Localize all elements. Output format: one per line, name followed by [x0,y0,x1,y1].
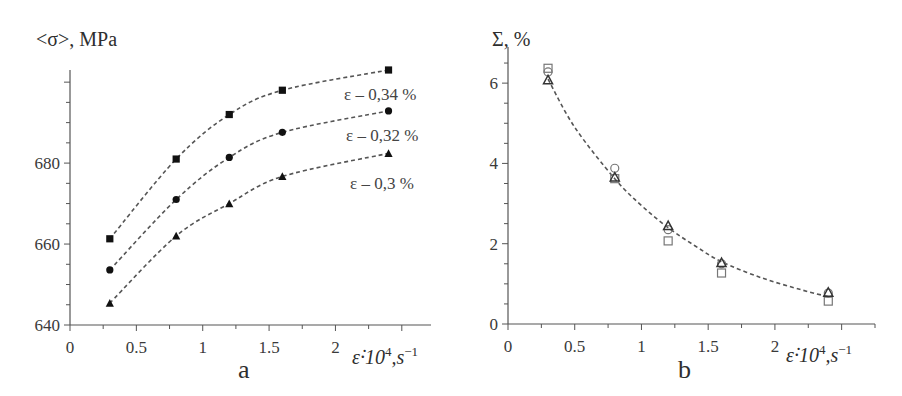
circle-marker [226,154,233,161]
curve-label-034: ε – 0,34 % [344,85,416,104]
triangle-marker [106,299,114,307]
panel-label-b: b [678,355,691,384]
fit-curve [548,79,828,297]
data-markers-b [543,64,832,305]
x-tick-label: 0 [66,338,75,357]
y-tick-label: 2 [490,235,499,254]
circle-marker [106,266,113,273]
y-axis-label-b: Σ, % [492,28,530,50]
y-tick-label: 640 [35,316,61,335]
x-axis-label-b: ε̇·104,s−1 [786,342,852,366]
x-axis-label-b-unit: ,s [825,344,838,366]
triangle-marker [384,149,392,157]
square-marker [106,235,113,242]
x-tick-label: 0.5 [564,337,585,356]
square-marker [279,87,286,94]
x-axis-label-a-unit-sup: −1 [404,344,418,359]
x-axis-label-a-main: ε̇·10 [352,346,385,368]
x-axis-label-b-main: ε̇·10 [786,344,819,366]
x-tick-label: 1.5 [258,338,279,357]
square-marker [385,66,392,73]
x-axis-label-a-unit: ,s [391,346,404,368]
square-marker [226,111,233,118]
fit-curves-a [110,70,389,303]
circle-marker [385,107,392,114]
curve-label-03: ε – 0,3 % [350,174,414,193]
chart-panel-a: <σ>, MPa 00.511.52640660680 ε – 0,34 % ε… [35,28,432,384]
x-tick-label: 1.5 [698,337,719,356]
triangle-marker [225,199,233,207]
fit-curve-b [548,79,828,297]
square-marker [173,155,180,162]
x-axis-label-a: ε̇·104,s−1 [352,344,418,368]
x-tick-label: 0.5 [126,338,147,357]
y-tick-label: 680 [35,154,61,173]
x-tick-label: 2 [771,337,780,356]
y-tick-label: 0 [490,315,499,334]
y-tick-label: 6 [490,74,499,93]
panel-label-a: a [238,355,250,384]
circle-marker [279,129,286,136]
x-tick-label: 2 [331,338,340,357]
fit-curve [110,153,389,303]
y-tick-label: 4 [490,154,499,173]
chart-panel-b: Σ, % 00.511.520246 b ε̇·104,s−1 [490,28,876,384]
curve-label-032: ε – 0,32 % [346,126,418,145]
y-tick-label: 660 [35,235,61,254]
open-square-marker [824,297,832,305]
open-square-marker [718,269,726,277]
x-tick-label: 0 [504,337,513,356]
y-axis-label-a: <σ>, MPa [36,28,117,50]
open-square-marker [664,237,672,245]
curve-labels-a: ε – 0,34 % ε – 0,32 % ε – 0,3 % [344,85,418,193]
x-axis-label-b-unit-sup: −1 [838,342,852,357]
circle-marker [173,196,180,203]
x-tick-label: 1 [637,337,646,356]
axes-b: 00.511.520246 [490,47,876,356]
x-tick-label: 1 [198,338,207,357]
figure: <σ>, MPa 00.511.52640660680 ε – 0,34 % ε… [0,0,902,396]
